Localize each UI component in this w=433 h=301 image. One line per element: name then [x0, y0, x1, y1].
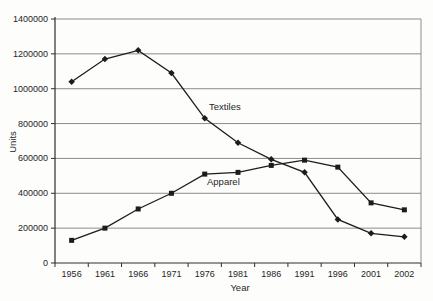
y-axis-title: Units	[7, 131, 18, 153]
series-apparel-marker-square	[302, 158, 307, 163]
series-apparel-marker-square	[402, 207, 407, 212]
y-tick-label: 400000	[18, 188, 48, 198]
series-textiles-marker-diamond	[401, 234, 408, 241]
y-tick-label: 1200000	[13, 49, 48, 59]
series-apparel-marker-square	[102, 226, 107, 231]
x-tick-label: 1971	[161, 269, 181, 279]
series-apparel-marker-square	[236, 170, 241, 175]
x-tick-label: 1961	[95, 269, 115, 279]
x-tick-label: 1991	[295, 269, 315, 279]
series-apparel-marker-square	[136, 206, 141, 211]
series-apparel-marker-square	[369, 200, 374, 205]
series-apparel-marker-square	[69, 238, 74, 243]
x-tick-label: 1976	[195, 269, 215, 279]
series-textiles-marker-diamond	[268, 156, 275, 163]
series-apparel-marker-square	[335, 165, 340, 170]
y-tick-label: 0	[43, 258, 48, 268]
y-tick-label: 1000000	[13, 84, 48, 94]
annotation-textiles-label: Textiles	[209, 101, 241, 112]
x-tick-label: 1996	[328, 269, 348, 279]
x-axis-title: Year	[230, 282, 249, 293]
y-tick-label: 1400000	[13, 14, 48, 24]
y-tick-label: 200000	[18, 223, 48, 233]
x-tick-label: 2001	[361, 269, 381, 279]
series-textiles-marker-diamond	[368, 230, 375, 237]
y-tick-label: 800000	[18, 119, 48, 129]
x-tick-label: 1981	[228, 269, 248, 279]
x-tick-label: 1966	[128, 269, 148, 279]
annotation-apparel-label: Apparel	[207, 176, 240, 187]
series-apparel-marker-square	[269, 163, 274, 168]
x-tick-label: 1986	[261, 269, 281, 279]
scanned-line-chart-page: 0200000400000600000800000100000012000001…	[0, 0, 433, 301]
x-tick-label: 2002	[394, 269, 414, 279]
series-apparel-marker-square	[169, 191, 174, 196]
units-by-year-line-chart: 0200000400000600000800000100000012000001…	[0, 0, 433, 301]
y-tick-label: 600000	[18, 153, 48, 163]
x-tick-label: 1956	[62, 269, 82, 279]
